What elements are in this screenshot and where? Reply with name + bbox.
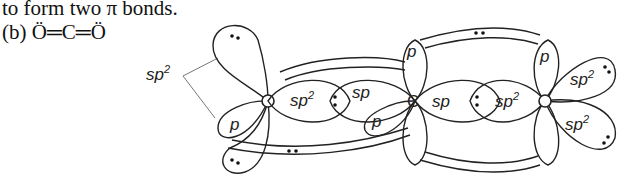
c-p-left-label: p bbox=[371, 112, 381, 131]
c-sp-right-lobe bbox=[415, 80, 500, 122]
right-o-sp2-lower-label: sp2 bbox=[565, 113, 589, 134]
pi-bond-left-top bbox=[280, 58, 405, 80]
pi-bond-right-top bbox=[420, 28, 540, 48]
co2-orbital-diagram: sp2 p sp2 sp p p C sp sp2 p sp2 sp2 bbox=[0, 0, 623, 179]
right-o-sp2-bond-label: sp2 bbox=[495, 90, 519, 111]
c-sp-left-label: sp bbox=[352, 83, 370, 102]
sp2-callout-label: sp2 bbox=[146, 63, 170, 84]
right-o-sp2-upper-label: sp2 bbox=[570, 68, 594, 89]
left-o-p-label: p bbox=[229, 115, 239, 134]
left-o-sp2-upper-lobe bbox=[213, 26, 268, 101]
pi-bond-right-bottom bbox=[420, 152, 540, 172]
left-o-sp2-bond-label: sp2 bbox=[290, 89, 314, 110]
callout-lines bbox=[183, 58, 218, 118]
right-oxygen-nucleus bbox=[539, 95, 551, 107]
right-o-p-lobe-bottom bbox=[534, 101, 559, 165]
electron-pairs bbox=[230, 31, 611, 165]
c-sp-right-label: sp bbox=[432, 92, 450, 111]
carbon-label: C bbox=[407, 92, 419, 111]
left-o-sp2-bond-lobe bbox=[268, 80, 350, 122]
right-o-p-top-label: p bbox=[539, 47, 549, 66]
pi-bond-left-bottom bbox=[228, 128, 410, 154]
c-p-top-label: p bbox=[406, 42, 416, 61]
